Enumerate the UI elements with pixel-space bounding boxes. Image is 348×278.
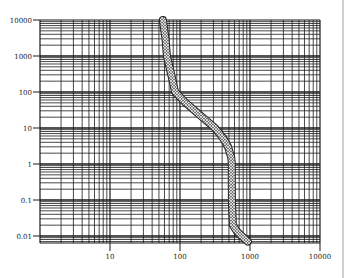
y-tick-label: 0.01: [16, 233, 32, 241]
y-tick-label: 1: [28, 161, 32, 169]
y-tick-label: 1000: [14, 53, 32, 61]
y-tick-label: 10: [23, 125, 32, 133]
x-tick-label: 1000: [241, 253, 259, 261]
y-tick-label: 0.1: [21, 197, 32, 205]
y-tick-label: 100: [19, 89, 32, 97]
log-log-chart: 1000010001001010.10.0110100100010000: [0, 0, 348, 278]
x-tick-label: 10000: [309, 253, 331, 261]
x-tick-label: 100: [173, 253, 186, 261]
y-tick-label: 10000: [10, 17, 32, 25]
x-tick-label: 10: [106, 253, 115, 261]
